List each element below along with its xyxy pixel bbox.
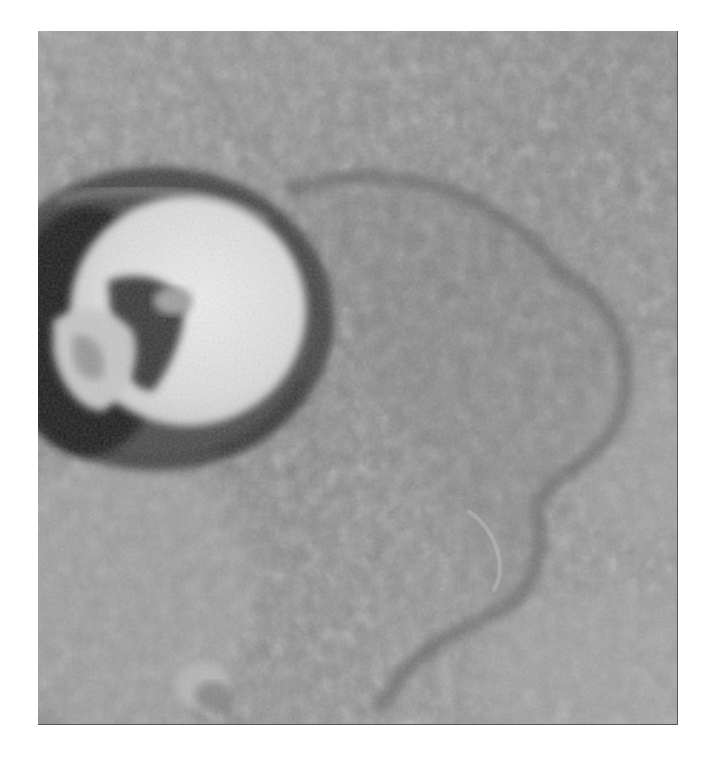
- crater-photograph: [38, 31, 678, 725]
- terrain-render: [38, 31, 677, 724]
